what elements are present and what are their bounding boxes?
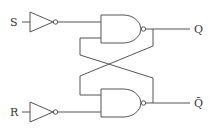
s-inverter [30, 12, 58, 32]
top-nand-gate [101, 15, 146, 43]
top-nand-bubble [141, 27, 145, 31]
sr-latch-diagram: S Q Q̄ R [0, 0, 209, 131]
q-output-label: Q [194, 23, 203, 36]
r-input-label: R [10, 106, 19, 119]
bottom-nand-bubble [141, 101, 145, 105]
r-inverter-bubble [53, 110, 57, 114]
qbar-output-label: Q̄ [194, 97, 203, 110]
bottom-nand-gate [101, 89, 146, 117]
s-inverter-bubble [53, 20, 57, 24]
s-input-label: S [10, 16, 18, 29]
r-inverter [30, 102, 58, 122]
